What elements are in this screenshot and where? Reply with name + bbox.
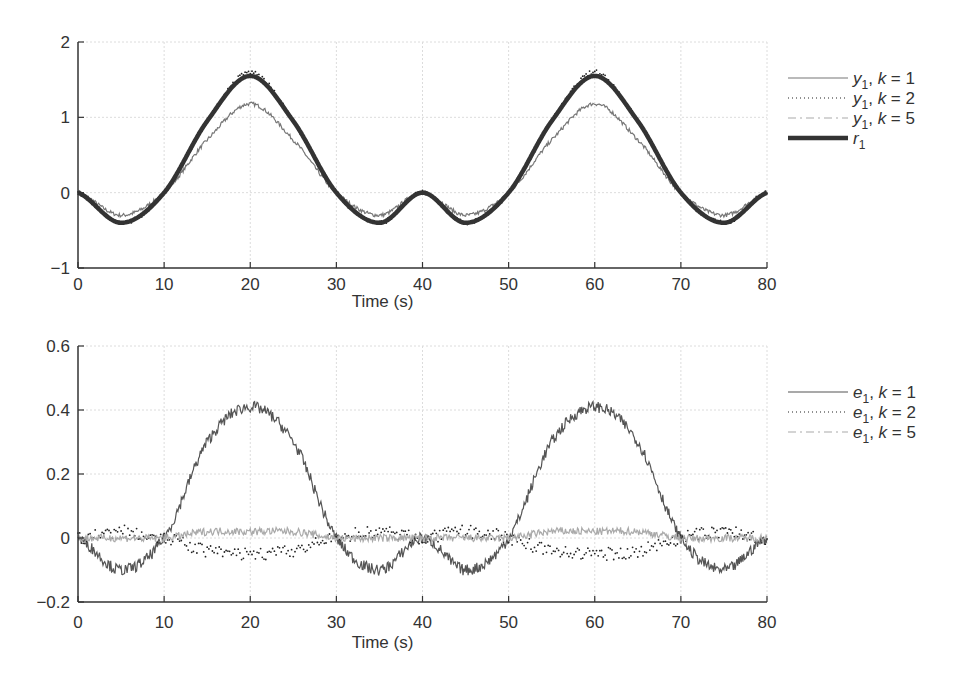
x-tick-label: 70	[671, 275, 690, 294]
x-tick-label: 60	[585, 275, 604, 294]
grid	[78, 346, 767, 602]
x-tick-label: 30	[327, 613, 346, 632]
legend-label: y1, k = 5	[852, 109, 915, 132]
x-tick-label: 60	[585, 613, 604, 632]
figure: 01020304050607080−1012Time (s)y1, k = 1y…	[0, 0, 968, 688]
top-plot-output-tracking: 01020304050607080−1012Time (s)y1, k = 1y…	[51, 33, 915, 311]
x-tick-label: 50	[499, 613, 518, 632]
x-tick-label: 0	[73, 275, 82, 294]
x-tick-label: 20	[241, 613, 260, 632]
axes: 01020304050607080−0.200.20.40.6Time (s)	[36, 337, 776, 652]
x-tick-label: 40	[413, 613, 432, 632]
y-tick-label: 0.4	[46, 401, 70, 420]
x-tick-label: 80	[758, 275, 777, 294]
x-tick-label: 40	[413, 275, 432, 294]
x-tick-label: 10	[155, 613, 174, 632]
y-tick-label: −0.2	[36, 593, 70, 612]
legend-label: e1, k = 5	[853, 423, 916, 446]
x-tick-label: 0	[73, 613, 82, 632]
legend: e1, k = 1e1, k = 2e1, k = 5	[788, 383, 916, 446]
legend: y1, k = 1y1, k = 2y1, k = 5r1	[788, 69, 915, 152]
x-tick-label: 70	[671, 613, 690, 632]
x-tick-label: 50	[499, 275, 518, 294]
legend-item: e1, k = 5	[788, 423, 916, 446]
x-axis-title: Time (s)	[352, 292, 414, 311]
x-tick-label: 80	[758, 613, 777, 632]
y-tick-label: 1	[61, 108, 70, 127]
y-tick-label: 0.2	[46, 465, 70, 484]
legend-item: r1	[788, 129, 866, 152]
x-tick-label: 10	[155, 275, 174, 294]
legend-label: r1	[853, 129, 866, 152]
x-tick-label: 30	[327, 275, 346, 294]
grid	[78, 42, 767, 268]
x-tick-label: 20	[241, 275, 260, 294]
y-tick-label: −1	[51, 259, 70, 278]
bottom-plot-tracking-error: 01020304050607080−0.200.20.40.6Time (s)e…	[36, 337, 916, 652]
y-tick-label: 0.6	[46, 337, 70, 356]
y-tick-label: 2	[61, 33, 70, 52]
y-tick-label: 0	[61, 529, 70, 548]
x-axis-title: Time (s)	[352, 633, 414, 652]
series-y1-k-5	[78, 75, 767, 223]
series-r1	[78, 76, 767, 223]
legend-item: y1, k = 5	[788, 109, 915, 132]
y-tick-label: 0	[61, 184, 70, 203]
